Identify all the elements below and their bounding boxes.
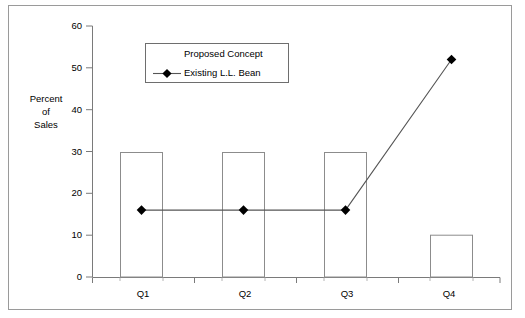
x-tick-label-q3: Q3: [325, 288, 369, 299]
y-tick-label-50: 50: [58, 62, 82, 73]
legend-entry-proposed-concept: Proposed Concept: [146, 45, 290, 64]
y-axis-title-line-3: Sales: [18, 118, 74, 131]
legend-label-existing-llbean: Existing L.L. Bean: [184, 67, 261, 78]
x-tick-label-q1: Q1: [121, 288, 165, 299]
x-tick-label-q2: Q2: [223, 288, 267, 299]
y-tick-label-0: 0: [58, 271, 82, 282]
y-axis-ticks: [86, 26, 93, 277]
x-tick-label-q4: Q4: [427, 288, 471, 299]
legend-entry-existing-llbean: Existing L.L. Bean: [146, 64, 290, 83]
chart-container: Percent of Sales 60 50 40 30 20 10 0 Q1 …: [0, 0, 525, 318]
bar-series-proposed-concept: [121, 153, 473, 278]
x-axis-ticks: [93, 278, 501, 284]
y-tick-label-10: 10: [58, 229, 82, 240]
marker-q4: [447, 55, 457, 65]
y-tick-label-20: 20: [58, 187, 82, 198]
legend-marker-line-diamond-icon: [152, 64, 182, 83]
legend-marker-none-icon: [152, 45, 182, 64]
legend-label-proposed-concept: Proposed Concept: [184, 48, 263, 59]
chart-legend: Proposed Concept Existing L.L. Bean: [145, 43, 289, 83]
y-tick-label-30: 30: [58, 146, 82, 157]
y-tick-label-40: 40: [58, 104, 82, 115]
y-tick-label-60: 60: [58, 20, 82, 31]
bar-q4: [431, 235, 473, 277]
